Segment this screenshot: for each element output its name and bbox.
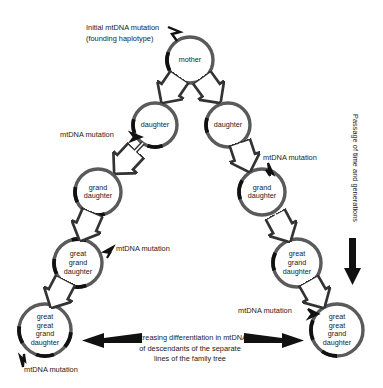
cell-greatgranddaughter-right: greatgranddaughter xyxy=(273,239,321,287)
cell-label-line: daughter xyxy=(323,338,352,347)
mutation-gg-left-pointer-icon xyxy=(20,354,25,367)
descent-arrow-inner xyxy=(240,143,249,170)
mutation-arc-3 xyxy=(72,239,86,240)
cell-label-line: daughter xyxy=(248,191,277,200)
cell-mother: mother xyxy=(167,37,213,83)
cell-label-line: daughter xyxy=(141,120,170,129)
descent-arrow-inner xyxy=(275,214,289,240)
descent-arrow-inner xyxy=(203,79,219,101)
mutation-greatgrand-left-label: mtDNA mutation xyxy=(116,244,170,253)
initial-mutation-label-line: Initial mtDNA mutation xyxy=(86,23,159,32)
mutation-arc-1 xyxy=(75,187,77,202)
cell-group: motherdaughterdaughtergranddaughtergrand… xyxy=(19,37,363,356)
differentiation-label-line: Increasing differentiation in mtDNA xyxy=(133,333,247,342)
passage-of-time-label: Passage of time and generations xyxy=(351,114,360,222)
cell-label-line: daughter xyxy=(214,120,243,129)
mutation-daughter-left-label: mtDNA mutation xyxy=(60,130,114,139)
descent-arrow-inner xyxy=(116,143,143,172)
descent-arrow-inner xyxy=(52,285,63,306)
cell-label-line: daughter xyxy=(84,191,113,200)
cell-label-line: daughter xyxy=(31,338,60,347)
descent-arrow-inner xyxy=(81,216,91,239)
descent-arrow-inner xyxy=(163,79,178,101)
time-down-arrow-icon xyxy=(344,238,361,285)
differentiation-label-line: of descendants of the separate xyxy=(139,344,241,353)
mutation-arc-1 xyxy=(311,320,313,339)
differentiation-label-line: lines of the family tree xyxy=(154,354,226,363)
cell-label-line: daughter xyxy=(283,267,312,276)
cell-granddaughter-right: granddaughter xyxy=(239,169,285,215)
differentiation-right-arrow-icon xyxy=(244,333,304,348)
mutation-arc-1 xyxy=(133,119,134,133)
diagram-canvas: motherdaughterdaughtergranddaughtergrand… xyxy=(0,0,383,388)
cell-greatgranddaughter-left: greatgranddaughter xyxy=(54,239,102,287)
cell-granddaughter-left: granddaughter xyxy=(75,169,121,215)
mutation-greatgrand-left-pointer-icon xyxy=(104,247,113,258)
mtdna-family-tree-diagram: motherdaughterdaughtergranddaughtergrand… xyxy=(0,0,383,388)
mutation-arc-2 xyxy=(90,214,105,215)
mutation-arc-1 xyxy=(206,118,207,132)
mutation-arc-2 xyxy=(36,354,54,356)
cell-daughter-right: daughter xyxy=(206,103,250,147)
descent-arrow-inner xyxy=(311,285,323,306)
mutation-arc-2 xyxy=(147,146,162,147)
differentiation-left-arrow-icon xyxy=(82,333,142,348)
cell-daughter-left: daughter xyxy=(133,103,177,147)
mutation-arc-2 xyxy=(71,286,87,287)
cell-greatgreatgranddaughter-right: greatgreatgranddaughter xyxy=(311,304,363,356)
cell-greatgreatgranddaughter-left: greatgreatgranddaughter xyxy=(19,304,71,356)
cell-label-line: mother xyxy=(179,55,202,64)
mutation-grand-right-label: mtDNA mutation xyxy=(263,153,317,162)
initial-mutation-label-line: (founding haplotype) xyxy=(86,34,153,43)
mutation-gg-left-label: mtDNA mutation xyxy=(24,365,78,374)
mutation-gg-right-label: mtDNA mutation xyxy=(238,306,292,315)
cell-label-line: daughter xyxy=(64,267,93,276)
